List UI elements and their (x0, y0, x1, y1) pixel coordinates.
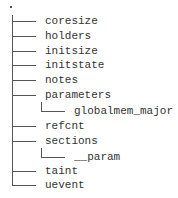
tree-item-uevent[interactable]: uevent (45, 179, 85, 191)
branch-line (12, 36, 36, 37)
directory-tree: coresize holders initsize initstate note… (0, 0, 178, 198)
branch-line (12, 141, 36, 142)
branch-line (12, 51, 36, 52)
branch-line (12, 95, 36, 96)
tree-item-initstate[interactable]: initstate (45, 59, 104, 71)
tree-item-parameters[interactable]: parameters (45, 89, 111, 101)
tree-item-notes[interactable]: notes (45, 74, 78, 86)
tree-item-refcnt[interactable]: refcnt (45, 120, 85, 132)
tree-item-globalmem-major[interactable]: globalmem_major (74, 105, 173, 117)
branch-line (12, 126, 36, 127)
tree-item-sections[interactable]: sections (45, 135, 98, 147)
tree-trunk (12, 15, 13, 185)
tree-root (10, 6, 12, 8)
tree-item-param[interactable]: __param (74, 151, 120, 163)
branch-line (12, 21, 36, 22)
tree-item-taint[interactable]: taint (45, 165, 78, 177)
branch-line (41, 111, 65, 112)
branch-line (41, 157, 65, 158)
branch-line (12, 65, 36, 66)
tree-item-holders[interactable]: holders (45, 30, 91, 42)
subtree-line (41, 148, 42, 157)
tree-item-initsize[interactable]: initsize (45, 45, 98, 57)
tree-item-coresize[interactable]: coresize (45, 15, 98, 27)
subtree-line (41, 102, 42, 111)
branch-line (12, 185, 36, 186)
branch-line (12, 171, 36, 172)
branch-line (12, 80, 36, 81)
